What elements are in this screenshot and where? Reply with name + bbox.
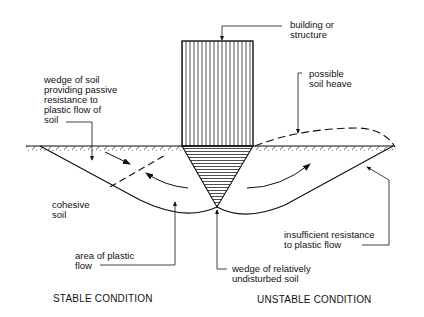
flow-arrow-left-down [105, 152, 130, 164]
label-passive-wedge: wedge of soil providing passive resistan… [44, 75, 117, 125]
flow-arrow-left-up [146, 173, 188, 188]
flow-arrow-right-up [247, 164, 310, 188]
leader-soil-heave [298, 73, 302, 133]
undisturbed-wedge [182, 146, 253, 207]
label-insufficient-resistance: insufficient resistance to plastic flow [284, 230, 375, 250]
label-building: building or structure [290, 20, 334, 40]
label-plastic-flow-area: area of plastic flow [75, 251, 134, 271]
label-cohesive-soil: cohesive soil [52, 200, 90, 220]
label-soil-heave: possible soil heave [309, 69, 352, 89]
building [182, 41, 253, 146]
caption-unstable: UNSTABLE CONDITION [257, 294, 372, 305]
leader-undisturbed-wedge [217, 210, 227, 269]
leader-passive-wedge [66, 122, 92, 160]
leader-building [222, 26, 282, 40]
soil-heave-curve [255, 128, 395, 147]
label-undisturbed-wedge: wedge of relatively undisturbed soil [232, 264, 311, 284]
caption-stable: STABLE CONDITION [53, 293, 153, 304]
soil-failure-diagram [0, 0, 424, 317]
